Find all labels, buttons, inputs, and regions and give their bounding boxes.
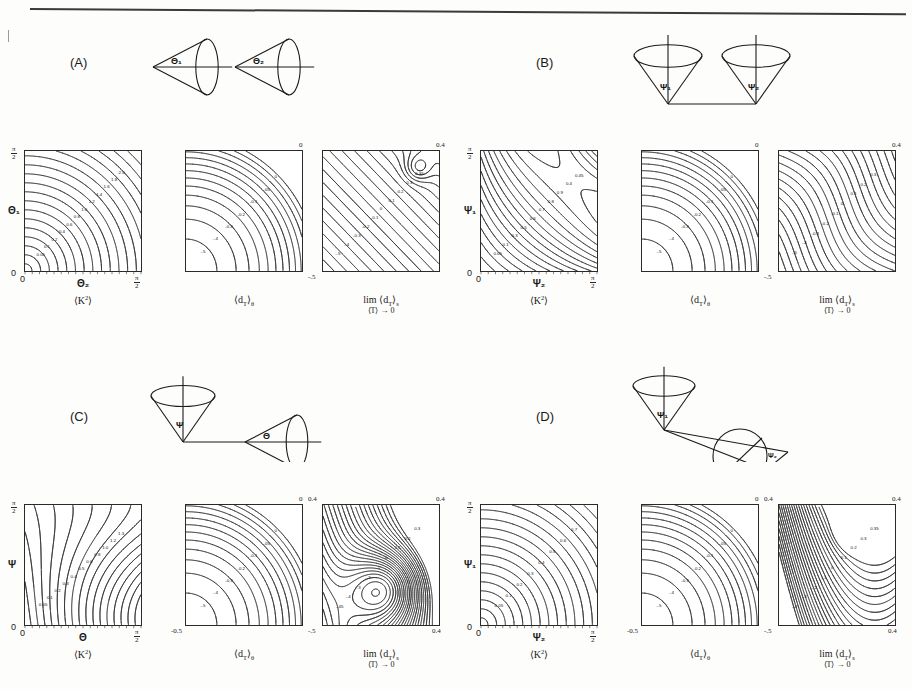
plot-caption: ⟨dT⟩θ: [641, 294, 759, 307]
svg-text:0.05: 0.05: [493, 251, 502, 256]
svg-text:0.1: 0.1: [389, 198, 396, 203]
svg-text:-.05: -.05: [262, 541, 270, 546]
plot-corner-label: 0: [755, 495, 759, 503]
svg-text:-.1: -.1: [821, 575, 827, 580]
plot-corner-label: 0.4: [436, 141, 445, 149]
contour-plot-a-2: -.5-.4-0.3-0.2-0.1-.0500⟨dT⟩θ: [185, 150, 303, 272]
contour-lines: 0.050.10.20.30.40.50.60.81.01.21.3: [24, 504, 142, 626]
svg-text:0.3: 0.3: [63, 581, 70, 586]
plot-corner-label: -0.5: [627, 627, 638, 635]
panel-b: (B)Ψ₁Ψ₂0.050.10.30.50.60.70.80.90.40.45Ψ…: [456, 0, 912, 344]
x-axis-ticks: [480, 271, 600, 285]
plot-corner-label: -.5: [308, 273, 316, 281]
svg-text:-0.1: -0.1: [250, 553, 258, 558]
panel-c: (C)ΨΘ0.050.10.20.30.40.50.60.81.01.21.3Ψ…: [0, 344, 456, 688]
svg-text:2.0: 2.0: [119, 170, 126, 175]
svg-text:Ψ: Ψ: [176, 420, 183, 430]
plot-corner-label: 0: [755, 141, 759, 149]
svg-text:-.05: -.05: [262, 187, 270, 192]
contour-lines: 0.050.10.30.50.60.70.80.90.40.45: [480, 150, 598, 272]
contour-plot-a-1: 0.050.10.20.40.60.81.01.21.41.61.82.0Θ₁π…: [24, 150, 142, 272]
contour-plot-a-3: -.5-.4-0.3-0.2-0.100.10.20.30.350.4-.5li…: [322, 150, 440, 272]
svg-text:0.05: 0.05: [39, 602, 48, 607]
svg-text:Ψ₂: Ψ₂: [748, 82, 759, 92]
plot-corner-label: 0.4: [888, 627, 897, 635]
y-axis-max-tick: π2: [11, 146, 17, 161]
panel-letter: (C): [70, 409, 88, 424]
svg-text:0.2: 0.2: [55, 588, 62, 593]
x-axis-ticks: [24, 271, 144, 285]
svg-text:-.4: -.4: [669, 236, 675, 241]
svg-text:0.35: 0.35: [870, 526, 879, 531]
svg-text:0.1: 0.1: [47, 595, 54, 600]
svg-text:-.3: -.3: [356, 585, 362, 590]
y-axis-label: Ψ: [8, 559, 16, 570]
svg-text:0.3: 0.3: [870, 172, 877, 177]
svg-text:0.1: 0.1: [503, 242, 510, 247]
svg-text:0.6: 0.6: [560, 538, 567, 543]
origin-label: 0: [11, 622, 16, 632]
plot-corner-label: -.5: [764, 627, 772, 635]
svg-text:-0.1: -0.1: [706, 199, 714, 204]
origin-label: 0: [467, 622, 472, 632]
svg-text:-0.1: -0.1: [371, 215, 379, 220]
svg-text:0: 0: [731, 174, 734, 179]
svg-text:1.0: 1.0: [102, 545, 109, 550]
svg-text:0.1: 0.1: [44, 244, 51, 249]
svg-text:0.2: 0.2: [851, 545, 858, 550]
contour-lines: 0.050.10.20.40.60.81.01.21.41.61.82.0: [24, 150, 142, 272]
contour-lines: 0.050.10.20.30.40.50.60.7: [480, 504, 598, 626]
svg-text:0.05: 0.05: [495, 603, 504, 608]
svg-text:0.3: 0.3: [406, 180, 413, 185]
svg-text:-0.2: -0.2: [694, 212, 702, 217]
cone-diagram-downward-cone-and-horizontal-cone: ΨΘ: [135, 352, 345, 466]
svg-text:0.1: 0.1: [395, 545, 402, 550]
svg-text:0.1: 0.1: [841, 555, 848, 560]
contour-plot-d-2: -.5-.4-0.3-0.2-0.1-.0500-0.5⟨dT⟩θ: [641, 504, 759, 626]
svg-text:0.3: 0.3: [512, 233, 519, 238]
svg-text:0.2: 0.2: [51, 237, 58, 242]
plot-corner-label: 0.4: [764, 495, 773, 503]
contour-lines: -.5-.4-0.3-0.2-0.100.10.20.3: [778, 150, 896, 272]
contour-plot-c-2: -.5-.4-0.3-0.2-0.1-.0500-0.5⟨dT⟩θ: [185, 504, 303, 626]
svg-text:1.2: 1.2: [110, 538, 117, 543]
svg-text:-.2: -.2: [365, 575, 371, 580]
svg-text:0: 0: [275, 528, 278, 533]
svg-text:0.7: 0.7: [571, 527, 578, 532]
svg-text:Θ₁: Θ₁: [171, 56, 182, 66]
y-axis-label: Ψ₁: [464, 559, 476, 570]
y-axis-label: Ψ₁: [464, 205, 476, 216]
cone-diagram-two-horizontal-cones: Θ₁Θ₂: [135, 12, 345, 126]
y-axis-max-tick: π2: [467, 500, 473, 515]
svg-text:0.2: 0.2: [516, 582, 523, 587]
svg-text:-.4: -.4: [792, 604, 798, 609]
svg-text:0.1: 0.1: [506, 593, 513, 598]
svg-text:-.4: -.4: [802, 240, 808, 245]
svg-text:-.05: -.05: [718, 187, 726, 192]
svg-text:Ψ₂: Ψ₂: [768, 452, 777, 459]
svg-text:-.2: -.2: [812, 585, 818, 590]
y-axis-max-tick: π2: [467, 146, 473, 161]
svg-text:-0.3: -0.3: [225, 578, 233, 583]
svg-text:-.4: -.4: [346, 594, 352, 599]
svg-text:-.4: -.4: [669, 590, 675, 595]
svg-text:1.6: 1.6: [104, 184, 111, 189]
svg-text:0.5: 0.5: [549, 549, 556, 554]
svg-text:0.3: 0.3: [860, 536, 867, 541]
svg-text:0.6: 0.6: [66, 222, 73, 227]
svg-text:0.05: 0.05: [37, 252, 46, 257]
svg-text:-0.3: -0.3: [681, 224, 689, 229]
svg-text:0: 0: [731, 528, 734, 533]
svg-text:1.4: 1.4: [96, 192, 103, 197]
svg-text:0.8: 0.8: [94, 552, 101, 557]
svg-text:0.6: 0.6: [86, 559, 93, 564]
svg-text:-0.2: -0.2: [238, 212, 246, 217]
svg-text:0.4: 0.4: [538, 560, 545, 565]
svg-text:-0.1: -0.1: [250, 199, 258, 204]
svg-text:0: 0: [831, 565, 834, 570]
contour-lines: -.5-.4-0.3-0.2-0.1-.050: [641, 150, 759, 272]
plot-caption: ⟨dT⟩θ: [185, 294, 303, 307]
svg-text:-.3: -.3: [802, 594, 808, 599]
svg-text:0.9: 0.9: [557, 190, 564, 195]
panel-d: (D)Ψ₁Ψ₂0.050.10.20.30.40.50.60.7Ψ₁π200Ψ₂…: [456, 344, 912, 688]
